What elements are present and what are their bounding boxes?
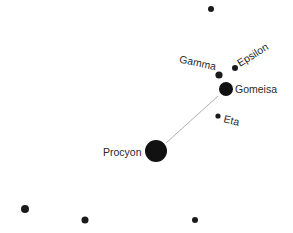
star-eta[interactable] (215, 113, 220, 118)
star-epsilon[interactable] (232, 65, 238, 71)
label-procyon: Procyon (103, 146, 142, 158)
star-bottom-mid[interactable] (82, 217, 89, 224)
chart-background (0, 0, 293, 233)
star-bottom-right[interactable] (192, 217, 198, 223)
label-gomeisa: Gomeisa (235, 83, 277, 95)
star-top[interactable] (208, 6, 214, 12)
star-gomeisa[interactable] (219, 82, 233, 96)
star-bottom-left[interactable] (21, 205, 29, 213)
star-chart: Gamma Epsilon Gomeisa Eta Procyon (0, 0, 293, 233)
star-procyon[interactable] (145, 140, 167, 162)
star-gamma[interactable] (215, 71, 222, 78)
